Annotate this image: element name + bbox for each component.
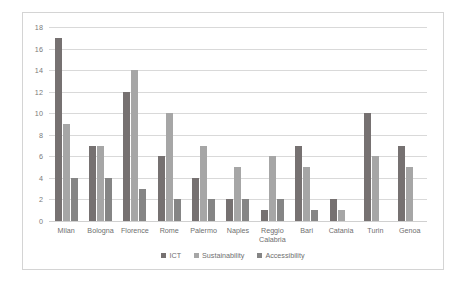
- legend-swatch-icon: [161, 253, 166, 258]
- bar-group: [221, 27, 255, 221]
- x-label-catania: Catania: [324, 223, 358, 253]
- bar-group: [152, 27, 186, 221]
- bar-ict-turin[interactable]: [364, 113, 371, 221]
- legend-swatch-icon: [194, 253, 199, 258]
- bar-accessibility-florence[interactable]: [139, 189, 146, 221]
- bar-sustainability-milan[interactable]: [63, 124, 70, 221]
- bar-group: [358, 27, 392, 221]
- bar-sustainability-turin[interactable]: [372, 156, 379, 221]
- x-label-florence: Florence: [118, 223, 152, 253]
- bar-ict-genoa[interactable]: [398, 146, 405, 221]
- legend-swatch-icon: [257, 253, 262, 258]
- bar-group: [255, 27, 289, 221]
- bar-sustainability-florence[interactable]: [131, 70, 138, 221]
- y-tick-label-16: 16: [35, 44, 43, 53]
- bar-sustainability-rome[interactable]: [166, 113, 173, 221]
- bar-sustainability-reggio-calabria[interactable]: [269, 156, 276, 221]
- y-tick-label-2: 2: [39, 195, 43, 204]
- bar-ict-naples[interactable]: [226, 199, 233, 221]
- bar-accessibility-reggio-calabria[interactable]: [277, 199, 284, 221]
- x-label-palermo: Palermo: [186, 223, 220, 253]
- bar-ict-florence[interactable]: [123, 92, 130, 221]
- bar-groups: [49, 27, 427, 221]
- bar-group: [290, 27, 324, 221]
- bar-ict-milan[interactable]: [55, 38, 62, 221]
- bar-sustainability-catania[interactable]: [338, 210, 345, 221]
- x-label-rome: Rome: [152, 223, 186, 253]
- y-tick-label-10: 10: [35, 109, 43, 118]
- y-tick-label-6: 6: [39, 152, 43, 161]
- x-label-naples: Naples: [221, 223, 255, 253]
- bar-accessibility-bari[interactable]: [311, 210, 318, 221]
- bar-group: [49, 27, 83, 221]
- chart-container: 024681012141618 MilanBolognaFlorenceRome…: [22, 12, 444, 270]
- bar-ict-bologna[interactable]: [89, 146, 96, 221]
- legend-label: ICT: [169, 251, 181, 260]
- x-label-milan: Milan: [49, 223, 83, 253]
- x-label-bari: Bari: [290, 223, 324, 253]
- y-tick-label-4: 4: [39, 173, 43, 182]
- bar-ict-catania[interactable]: [330, 199, 337, 221]
- bar-sustainability-bologna[interactable]: [97, 146, 104, 221]
- y-tick-label-18: 18: [35, 23, 43, 32]
- chart-legend: ICTSustainabilityAccessibility: [23, 251, 443, 260]
- bar-accessibility-bologna[interactable]: [105, 178, 112, 221]
- bar-accessibility-rome[interactable]: [174, 199, 181, 221]
- legend-item-sustainability[interactable]: Sustainability: [194, 251, 244, 260]
- bar-group: [118, 27, 152, 221]
- plot-area: [49, 27, 427, 221]
- y-tick-label-0: 0: [39, 217, 43, 226]
- bar-sustainability-genoa[interactable]: [406, 167, 413, 221]
- bar-sustainability-bari[interactable]: [303, 167, 310, 221]
- x-label-genoa: Genoa: [393, 223, 427, 253]
- bar-ict-rome[interactable]: [158, 156, 165, 221]
- bar-accessibility-palermo[interactable]: [208, 199, 215, 221]
- gridline-0: [49, 221, 427, 222]
- legend-item-ict[interactable]: ICT: [161, 251, 181, 260]
- y-tick-label-8: 8: [39, 130, 43, 139]
- bar-group: [186, 27, 220, 221]
- bar-group: [393, 27, 427, 221]
- bar-sustainability-palermo[interactable]: [200, 146, 207, 221]
- y-tick-label-12: 12: [35, 87, 43, 96]
- bar-ict-reggio-calabria[interactable]: [261, 210, 268, 221]
- bar-sustainability-naples[interactable]: [234, 167, 241, 221]
- legend-item-accessibility[interactable]: Accessibility: [257, 251, 304, 260]
- x-label-turin: Turin: [358, 223, 392, 253]
- bar-accessibility-naples[interactable]: [242, 199, 249, 221]
- y-axis-tick-labels: 024681012141618: [23, 27, 47, 221]
- x-label-bologna: Bologna: [83, 223, 117, 253]
- bar-ict-bari[interactable]: [295, 146, 302, 221]
- x-axis-category-labels: MilanBolognaFlorenceRomePalermoNaplesReg…: [49, 223, 427, 253]
- y-tick-label-14: 14: [35, 66, 43, 75]
- bar-ict-palermo[interactable]: [192, 178, 199, 221]
- bar-group: [83, 27, 117, 221]
- x-label-reggio-calabria: Reggio Calabria: [255, 223, 289, 253]
- bar-group: [324, 27, 358, 221]
- legend-label: Sustainability: [202, 251, 244, 260]
- bar-accessibility-milan[interactable]: [71, 178, 78, 221]
- legend-label: Accessibility: [265, 251, 304, 260]
